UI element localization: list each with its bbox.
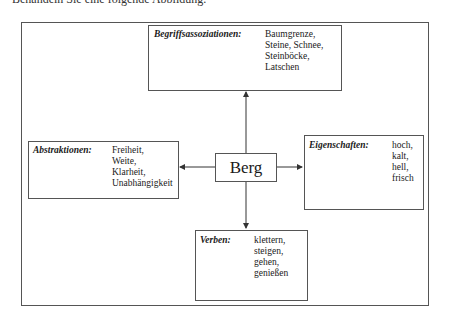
item: Unabhängigkeit [112, 178, 173, 189]
item: kalt, [392, 151, 414, 162]
left-box-abstractions: Abstraktionen: Freiheit, Weite, Klarheit… [28, 141, 179, 199]
verbs-items: klettern, steigen, gehen, genießen [254, 235, 288, 279]
associations-items: Baumgrenze, Steine, Schnee, Steinböcke, … [265, 29, 323, 73]
verbs-label: Verben: [200, 235, 231, 246]
item: Steine, Schnee, [265, 40, 323, 51]
properties-items: hoch, kalt, hell, frisch [392, 140, 414, 184]
item: Weite, [112, 156, 173, 167]
item: steigen, [254, 246, 288, 257]
item: hoch, [392, 140, 414, 151]
center-node-berg: Berg [215, 153, 277, 182]
item: Klarheit, [112, 167, 173, 178]
item: Steinböcke, [265, 51, 323, 62]
item: frisch [392, 173, 414, 184]
abstractions-items: Freiheit, Weite, Klarheit, Unabhängigkei… [112, 145, 173, 189]
item: Latschen [265, 62, 323, 73]
item: klettern, [254, 235, 288, 246]
item: Baumgrenze, [265, 29, 323, 40]
item: Freiheit, [112, 145, 173, 156]
right-box-properties: Eigenschaften: hoch, kalt, hell, frisch [304, 135, 424, 210]
bottom-box-verbs: Verben: klettern, steigen, gehen, genieß… [195, 230, 308, 301]
abstractions-label: Abstraktionen: [33, 145, 92, 156]
top-box-associations: Begriffsassoziationen: Baumgrenze, Stein… [148, 25, 342, 91]
item: gehen, [254, 257, 288, 268]
item: genießen [254, 268, 288, 279]
properties-label: Eigenschaften: [309, 140, 369, 151]
item: hell, [392, 162, 414, 173]
associations-label: Begriffsassoziationen: [154, 29, 241, 40]
